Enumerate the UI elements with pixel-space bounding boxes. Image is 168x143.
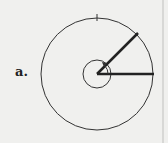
angle-diagram (0, 0, 168, 143)
terminal-side-ray (97, 33, 138, 74)
